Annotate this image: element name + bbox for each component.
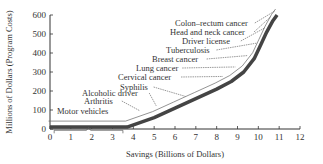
x-tick-label: 5 xyxy=(152,132,157,142)
x-tick-label: 8 xyxy=(214,132,219,142)
y-tick-label: 0 xyxy=(42,124,47,134)
y-tick-label: 100 xyxy=(33,105,47,115)
annotation-label: Cervical cancer xyxy=(118,72,171,82)
x-tick-label: 7 xyxy=(194,132,199,142)
annotation-leader xyxy=(149,93,156,106)
x-tick-label: 12 xyxy=(296,132,305,142)
annotation-label: Colon–rectum cancer xyxy=(175,18,248,28)
annotation-leader xyxy=(181,76,223,77)
annotation-label: Lung cancer xyxy=(136,63,178,73)
x-tick-label: 3 xyxy=(110,132,115,142)
y-tick-label: 500 xyxy=(33,29,47,39)
annotation-leader xyxy=(207,56,248,59)
x-tick-label: 2 xyxy=(89,132,94,142)
chart: Millions of Dollars (Program Costs) Savi… xyxy=(0,0,323,164)
x-tick-label: 1 xyxy=(69,132,74,142)
x-tick-label: 0 xyxy=(48,132,53,142)
x-tick-label: 6 xyxy=(173,132,178,142)
x-axis-title: Savings (Billions of Dollars) xyxy=(126,149,224,159)
annotation-leader xyxy=(154,87,186,96)
y-axis-title: Millions of Dollars (Program Costs) xyxy=(4,10,14,133)
annotation-label: Breast cancer xyxy=(152,54,198,64)
annotation-label: Syphilis xyxy=(120,82,148,92)
y-tick-label: 300 xyxy=(33,67,47,77)
annotation-label: Head and neck cancer xyxy=(170,27,245,37)
annotation-leader xyxy=(122,101,140,111)
annotation-leader xyxy=(182,67,235,68)
x-tick-label: 9 xyxy=(235,132,240,142)
x-tick-label: 11 xyxy=(275,132,284,142)
y-tick-label: 200 xyxy=(33,86,47,96)
x-tick-label: 10 xyxy=(254,132,264,142)
x-tick-label: 4 xyxy=(131,132,136,142)
annotation-label: Motor vehicles xyxy=(57,106,108,116)
y-tick-label: 600 xyxy=(33,10,47,20)
annotation-label: Driver license xyxy=(182,36,230,46)
y-tick-label: 400 xyxy=(33,48,47,58)
annotation-label: Tuberculosis xyxy=(166,45,210,55)
